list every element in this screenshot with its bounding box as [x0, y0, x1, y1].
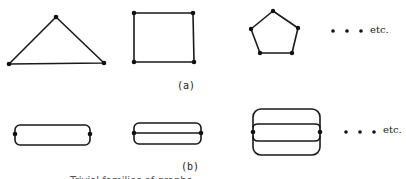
- continuation-dots-a: etc.: [331, 24, 389, 35]
- vertex: [249, 27, 253, 31]
- vertex: [132, 131, 137, 136]
- inner-edge-upper: [253, 124, 320, 128]
- part-a-label: (a): [177, 80, 195, 91]
- outer-edges: [253, 109, 320, 155]
- square-graph: [132, 11, 197, 65]
- double-edge-loop: [15, 125, 90, 145]
- triangle-graph: [7, 15, 107, 67]
- vertex: [192, 60, 197, 65]
- pentagon-edges: [251, 11, 298, 53]
- ellipsis-dot: [345, 29, 349, 33]
- vertex: [290, 51, 294, 55]
- vertex: [318, 130, 323, 135]
- vertex: [88, 132, 93, 137]
- vertex: [191, 11, 196, 16]
- vertex: [102, 61, 107, 66]
- ellipsis-dot: [358, 130, 362, 134]
- pentagon-graph: [249, 9, 300, 55]
- vertex: [271, 9, 275, 13]
- ellipsis-dot: [372, 130, 376, 134]
- part-a: etc. (a): [7, 9, 389, 91]
- ellipsis-dot: [331, 29, 335, 33]
- four-edge-graph: [251, 109, 323, 155]
- etc-label-a: etc.: [370, 24, 389, 35]
- graph-families-figure: etc. (a) etc. (b) Tr: [0, 0, 406, 179]
- vertex: [13, 132, 18, 137]
- continuation-dots-b: etc.: [344, 124, 402, 135]
- vertex: [251, 130, 256, 135]
- inner-edge-lower: [253, 136, 320, 141]
- three-edge-graph: [132, 123, 204, 144]
- ellipsis-dot: [359, 29, 363, 33]
- vertex: [296, 26, 300, 30]
- etc-label-b: etc.: [383, 124, 402, 135]
- part-b: etc. (b): [13, 109, 402, 172]
- part-b-label: (b): [181, 161, 199, 172]
- triangle-edges: [9, 17, 104, 64]
- vertex: [199, 131, 204, 136]
- vertex: [54, 15, 59, 20]
- two-edge-graph: [13, 125, 93, 145]
- vertex: [258, 51, 262, 55]
- ellipsis-dot: [344, 130, 348, 134]
- square-edges: [134, 13, 194, 62]
- vertex: [132, 11, 137, 16]
- figure-caption: Trivial families of graphs: [69, 175, 192, 179]
- vertex: [7, 62, 12, 67]
- vertex: [132, 60, 137, 65]
